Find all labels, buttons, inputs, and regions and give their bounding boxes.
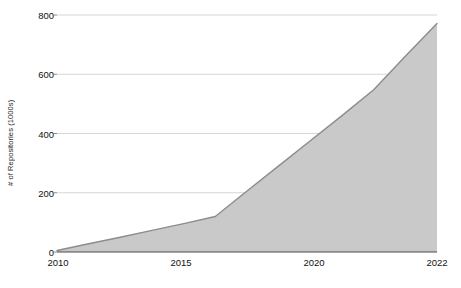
x-tick-label-2010: 2010 (47, 257, 68, 268)
x-tick-label-2020: 2020 (303, 257, 324, 268)
plot-area (0, 0, 461, 288)
area-fill (57, 23, 437, 252)
x-tick-label-2022: 2022 (426, 257, 447, 268)
y-axis-ticks (52, 15, 57, 252)
data-area-series (57, 23, 437, 252)
x-tick-label-2015: 2015 (170, 257, 191, 268)
area-chart: # of Repositories (1000s) 800 600 400 20… (0, 0, 461, 288)
